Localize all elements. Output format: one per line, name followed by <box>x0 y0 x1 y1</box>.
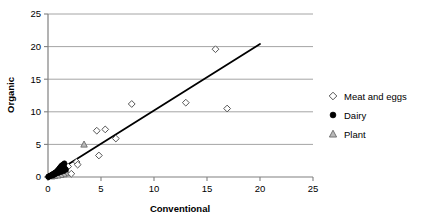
x-tick-label: 20 <box>255 183 266 194</box>
x-tick-labels: 0510152025 <box>45 183 318 194</box>
legend-marker-triangle <box>329 130 336 137</box>
legend-marker-diamond <box>329 92 337 100</box>
tick-marks <box>44 14 313 181</box>
x-tick-label: 10 <box>149 183 160 194</box>
gridlines <box>48 14 313 144</box>
legend-item-meat-and-eggs[interactable]: Meat and eggs <box>329 91 407 102</box>
data-point-circle <box>50 173 55 178</box>
y-tick-label: 15 <box>30 74 41 85</box>
x-axis-title: Conventional <box>150 203 210 214</box>
data-point-diamond <box>95 152 102 159</box>
data-point-diamond <box>182 99 189 106</box>
y-tick-label: 5 <box>36 139 41 150</box>
y-tick-label: 10 <box>30 106 41 117</box>
y-tick-label: 25 <box>30 8 41 19</box>
data-point-diamond <box>102 126 109 133</box>
x-tick-label: 15 <box>202 183 213 194</box>
x-tick-label: 0 <box>45 183 50 194</box>
y-tick-label: 0 <box>36 171 41 182</box>
data-point-diamond <box>128 101 135 108</box>
legend-item-dairy[interactable]: Dairy <box>330 110 366 121</box>
legend-label: Meat and eggs <box>344 91 407 102</box>
plot-canvas: 0510152025 0510152025 Conventional Organ… <box>0 0 425 222</box>
x-tick-label: 5 <box>98 183 103 194</box>
legend-label: Plant <box>344 129 366 140</box>
y-tick-labels: 0510152025 <box>30 8 41 182</box>
scatter-chart: 0510152025 0510152025 Conventional Organ… <box>0 0 425 222</box>
data-point-diamond <box>93 127 100 134</box>
data-point-diamond <box>224 105 231 112</box>
legend-item-plant[interactable]: Plant <box>329 129 366 140</box>
legend-marker-circle <box>330 112 336 118</box>
y-axis-title: Organic <box>5 77 16 113</box>
data-series-group <box>46 46 231 180</box>
legend-label: Dairy <box>344 110 366 121</box>
x-tick-label: 25 <box>308 183 319 194</box>
y-tick-label: 20 <box>30 41 41 52</box>
legend: Meat and eggsDairyPlant <box>329 91 407 140</box>
